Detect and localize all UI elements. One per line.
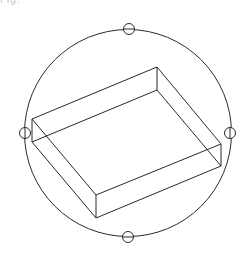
- top-edge: [32, 67, 157, 119]
- diagram-canvas: Fig.: [0, 0, 249, 260]
- top-edge: [157, 67, 221, 144]
- bottom-edge: [96, 166, 221, 218]
- rotation-handles: [20, 24, 236, 243]
- rotation-circle[interactable]: [25, 30, 232, 237]
- clipped-caption: Fig.: [0, 0, 21, 5]
- bottom-edge: [157, 90, 221, 166]
- top-edge: [96, 144, 221, 195]
- top-edge: [32, 119, 96, 195]
- wireframe-box[interactable]: [32, 67, 221, 218]
- bottom-edge: [32, 90, 157, 142]
- box-figure: [0, 0, 249, 260]
- bottom-edge: [32, 142, 96, 218]
